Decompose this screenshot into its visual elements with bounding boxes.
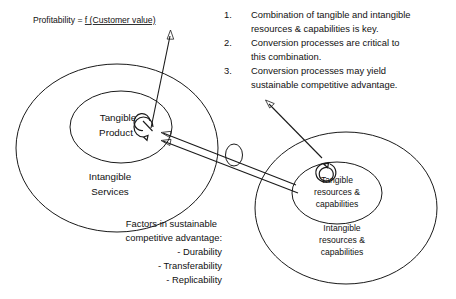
left-group: Tangible Product Intangible Services <box>16 64 218 232</box>
right-outer-label-line1: Intangible <box>323 223 360 233</box>
list-number-3: 3. <box>224 65 232 76</box>
connector-line-lower <box>163 141 298 193</box>
diagram-canvas: Tangible Product Intangible Services Tan… <box>0 0 456 299</box>
list-number-2: 2. <box>224 37 232 48</box>
factors-item-1: - Durability <box>177 246 222 257</box>
left-outer-ellipse <box>16 64 218 232</box>
factors-item-2: - Transferability <box>158 260 222 271</box>
profitability-formula-text: Profitability = f (Customer value) <box>33 15 156 25</box>
list-number-1: 1. <box>224 9 232 20</box>
list-item-3-line-2: sustainable competitive advantage. <box>251 79 397 90</box>
list-item-3-line-1: Conversion processes may yield <box>251 65 386 76</box>
profitability-formula: Profitability = f (Customer value) <box>33 15 156 25</box>
list-arrow <box>266 100 323 158</box>
numbered-list: 1. Combination of tangible and intangibl… <box>224 9 411 90</box>
factors-heading-line2: competitive advantage: <box>126 232 222 243</box>
right-outer-label-line3: capabilities <box>321 247 364 257</box>
right-inner-label-line1: Tangible <box>321 175 353 185</box>
list-item-1-line-1: Combination of tangible and intangible <box>251 9 411 20</box>
left-inner-label-line2: Product <box>99 127 133 138</box>
formula-prefix: Profitability = <box>33 15 85 25</box>
conversion-connector <box>161 131 298 193</box>
list-item-2-line-2: this combination. <box>251 51 321 62</box>
right-inner-label-line3: capabilities <box>316 199 359 209</box>
right-outer-label-line2: resources & <box>319 235 365 245</box>
factors-block: Factors in sustainable competitive advan… <box>126 218 223 285</box>
list-item-1-line-2: resources & capabilities is key. <box>251 23 378 34</box>
right-inner-label-line2: resources & <box>314 187 360 197</box>
right-group: Tangible resources & capabilities Intang… <box>255 132 437 284</box>
factors-item-3: - Replicability <box>166 274 222 285</box>
left-outer-label-line1: Intangible <box>89 171 132 182</box>
factors-heading-line1: Factors in sustainable <box>126 218 217 229</box>
list-item-2-line-1: Conversion processes are critical to <box>251 37 400 48</box>
formula-underlined: f (Customer value) <box>85 15 156 25</box>
profitability-arrow <box>151 30 174 128</box>
left-outer-label-line2: Services <box>91 186 129 197</box>
left-conversion-loop-icon <box>134 114 153 141</box>
profitability-arrowhead <box>167 30 174 39</box>
list-arrowhead <box>266 100 275 108</box>
conversion-process-node <box>226 144 243 166</box>
left-inner-label-line1: Tangible <box>100 112 137 123</box>
